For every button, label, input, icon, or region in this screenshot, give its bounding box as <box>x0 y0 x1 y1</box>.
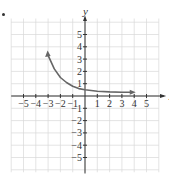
y-tick-label: −2 <box>71 115 82 126</box>
y-tick-label: 2 <box>77 66 82 77</box>
axes <box>11 15 166 173</box>
coordinate-plane: −5−4−3−2−11234554321−1−2−3−4−5 x y <box>0 0 169 183</box>
x-tick-label: −4 <box>30 98 41 109</box>
x-tick-label: 1 <box>95 98 100 109</box>
y-tick-label: −3 <box>71 127 82 138</box>
x-tick-label: −5 <box>18 98 29 109</box>
x-tick-label: 4 <box>132 98 137 109</box>
x-tick-label: 5 <box>144 98 149 109</box>
y-axis-label: y <box>82 5 88 17</box>
y-tick-label: −5 <box>71 152 82 163</box>
x-tick-label: −3 <box>43 98 54 109</box>
x-tick-label: −2 <box>55 98 66 109</box>
x-tick-label: 2 <box>107 98 112 109</box>
x-axis-label: x <box>168 90 169 102</box>
y-tick-label: 4 <box>77 41 82 52</box>
x-tick-label: 3 <box>119 98 124 109</box>
y-tick-label: 3 <box>77 54 82 65</box>
y-tick-label: 5 <box>77 29 82 40</box>
y-tick-label: −4 <box>71 140 82 151</box>
y-tick-label: −1 <box>71 103 82 114</box>
